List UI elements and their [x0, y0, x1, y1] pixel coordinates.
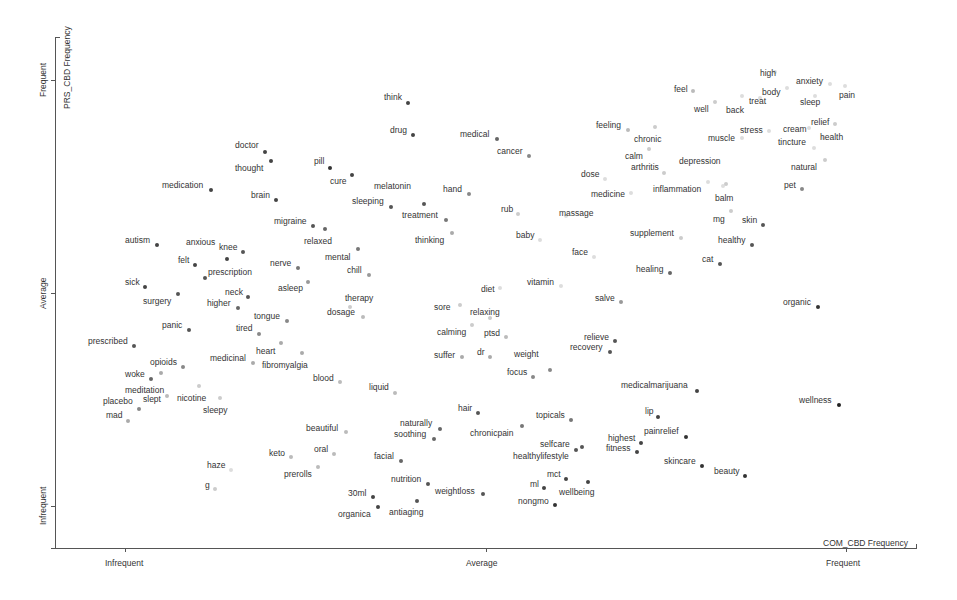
- point-label: feel: [674, 85, 688, 94]
- point-label: dosage: [327, 308, 355, 317]
- y-tick-label: Infrequent: [38, 487, 48, 525]
- data-point: [155, 243, 159, 247]
- data-point: [653, 125, 657, 129]
- data-point: [165, 394, 169, 398]
- point-label: haze: [207, 461, 225, 470]
- point-label: migraine: [274, 217, 307, 226]
- data-point: [300, 351, 304, 355]
- point-label: mct: [547, 470, 561, 479]
- x-axis-title: COM_CBD Frequency: [823, 538, 908, 548]
- point-label: prerolls: [284, 470, 312, 479]
- point-label: felt: [178, 256, 189, 265]
- data-point: [274, 198, 278, 202]
- data-point: [639, 441, 643, 445]
- point-label: g: [205, 481, 210, 490]
- point-label: fitness: [606, 444, 631, 453]
- point-label: doctor: [235, 141, 259, 150]
- data-point: [816, 305, 820, 309]
- point-label: antiaging: [389, 508, 424, 517]
- data-point: [559, 284, 563, 288]
- point-label: beautiful: [306, 424, 338, 433]
- data-point: [458, 303, 462, 307]
- data-point: [619, 300, 623, 304]
- data-point: [740, 136, 744, 140]
- data-point: [126, 419, 130, 423]
- data-point: [580, 445, 584, 449]
- data-point: [406, 101, 410, 105]
- point-label: treatment: [402, 211, 438, 220]
- point-label: dose: [581, 170, 599, 179]
- data-point: [713, 100, 717, 104]
- point-label: thought: [235, 164, 263, 173]
- data-point: [143, 285, 147, 289]
- point-label: muscle: [708, 134, 735, 143]
- x-axis-cap: [916, 544, 917, 549]
- data-point: [246, 295, 250, 299]
- point-label: cancer: [497, 147, 523, 156]
- point-label: relaxed: [304, 237, 332, 246]
- point-label: suffer: [434, 351, 455, 360]
- data-point: [181, 365, 185, 369]
- data-point: [635, 450, 639, 454]
- point-label: melatonin: [374, 182, 411, 191]
- y-tick: [51, 80, 55, 81]
- data-point: [132, 344, 136, 348]
- data-point: [592, 255, 596, 259]
- point-label: diet: [481, 285, 495, 294]
- data-point: [176, 292, 180, 296]
- point-label: brain: [251, 191, 270, 200]
- point-label: asleep: [278, 284, 303, 293]
- point-label: think: [384, 93, 402, 102]
- point-label: liquid: [369, 383, 389, 392]
- data-point: [629, 191, 633, 195]
- data-point: [187, 328, 191, 332]
- point-label: relaxing: [470, 308, 500, 317]
- data-point: [527, 154, 531, 158]
- point-label: mg: [713, 215, 725, 224]
- point-label: oral: [314, 445, 328, 454]
- point-label: hair: [458, 404, 472, 413]
- point-label: well: [694, 105, 709, 114]
- point-label: soothing: [394, 430, 426, 439]
- data-point: [149, 377, 153, 381]
- data-point: [553, 503, 557, 507]
- x-tick-label: Frequent: [826, 558, 860, 568]
- data-point: [289, 455, 293, 459]
- point-label: 30ml: [348, 489, 366, 498]
- data-point: [608, 350, 612, 354]
- data-point: [350, 173, 354, 177]
- point-label: weightloss: [435, 487, 475, 496]
- data-point: [569, 418, 573, 422]
- data-point: [724, 182, 728, 186]
- point-label: selfcare: [540, 440, 570, 449]
- point-label: naturally: [400, 419, 432, 428]
- data-point: [843, 84, 847, 88]
- point-label: drug: [390, 126, 407, 135]
- point-label: chill: [347, 266, 362, 275]
- data-point: [470, 323, 474, 327]
- data-point: [236, 306, 240, 310]
- data-point: [263, 150, 267, 154]
- data-point: [743, 474, 747, 478]
- point-label: face: [572, 248, 588, 257]
- point-label: panic: [162, 321, 182, 330]
- point-label: lip: [645, 407, 654, 416]
- point-label: cream: [783, 125, 807, 134]
- point-label: body: [762, 88, 780, 97]
- point-label: sick: [125, 278, 140, 287]
- point-label: feeling: [596, 121, 621, 130]
- point-label: autism: [125, 236, 150, 245]
- data-point: [137, 407, 141, 411]
- data-point: [800, 187, 804, 191]
- point-label: higher: [207, 299, 231, 308]
- data-point: [257, 332, 261, 336]
- point-label: massage: [559, 209, 594, 218]
- data-point: [516, 212, 520, 216]
- data-point: [662, 171, 666, 175]
- data-point: [476, 411, 480, 415]
- data-point: [668, 271, 672, 275]
- point-label: skin: [742, 216, 757, 225]
- data-point: [695, 389, 699, 393]
- data-point: [564, 477, 568, 481]
- data-point: [269, 159, 273, 163]
